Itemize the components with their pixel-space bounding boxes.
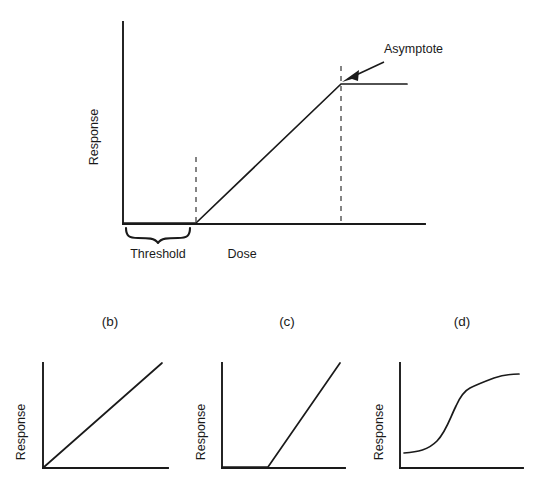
panel-c-curve [222, 363, 340, 467]
panel-c: (c) Response [194, 314, 345, 468]
main-x-axis-label: Dose [227, 247, 256, 261]
panel-d-y-axis-label: Response [372, 404, 386, 460]
panel-c-caption: (c) [279, 314, 295, 329]
threshold-brace [126, 228, 190, 243]
main-dose-response-curve [123, 84, 407, 223]
panel-c-y-axis-label: Response [194, 404, 208, 460]
asymptote-label: Asymptote [384, 42, 443, 56]
dose-response-figure: Response Dose Threshold Asymptote (b) Re… [0, 0, 534, 479]
panel-d: (d) Response [372, 314, 523, 468]
asymptote-arrow-head [342, 70, 359, 82]
figure-canvas: Response Dose Threshold Asymptote (b) Re… [0, 0, 534, 479]
panel-b-curve [44, 363, 162, 467]
panel-d-caption: (d) [454, 314, 471, 329]
panel-b: (b) Response [14, 314, 168, 468]
main-y-axis-label: Response [87, 109, 101, 165]
panel-b-y-axis-label: Response [14, 404, 28, 460]
panel-d-curve [404, 374, 519, 453]
threshold-label: Threshold [130, 247, 186, 261]
panel-b-caption: (b) [102, 314, 119, 329]
main-panel: Response Dose Threshold Asymptote [87, 22, 443, 261]
